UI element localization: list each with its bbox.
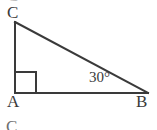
vertex-label-b: B — [136, 93, 147, 110]
right-angle-square-icon — [15, 72, 36, 93]
vertex-label-c: C — [7, 4, 18, 21]
cropped-glyph-bottom: C — [6, 118, 17, 130]
diagram-page: C A B 30° C C — [0, 0, 157, 130]
angle-label-30-degrees: 30° — [89, 70, 110, 85]
triangle-figure — [0, 0, 157, 130]
hypotenuse-cb-line — [15, 22, 148, 93]
vertex-label-a: A — [7, 93, 19, 110]
cropped-glyph-top: C — [7, 0, 18, 4]
